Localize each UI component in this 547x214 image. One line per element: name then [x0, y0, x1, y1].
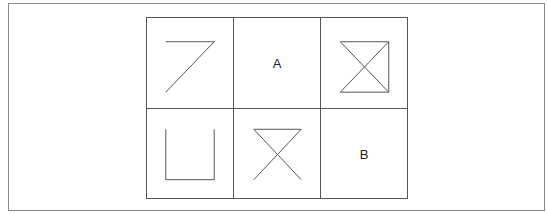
cell-r1c1	[147, 18, 234, 109]
hourglass-right-side-icon	[321, 18, 407, 108]
cell-r1c3	[321, 18, 407, 109]
cell-r2c3: B	[321, 109, 407, 198]
cell-label-a: A	[234, 56, 320, 71]
cell-r1c2: A	[234, 18, 321, 109]
open-square-icon	[147, 109, 233, 198]
cell-r2c1	[147, 109, 234, 198]
hourglass-open-icon	[234, 109, 320, 198]
puzzle-grid: A B	[146, 17, 408, 199]
cell-r2c2	[234, 109, 321, 198]
cell-label-b: B	[321, 146, 407, 161]
seven-shape-icon	[147, 18, 233, 108]
